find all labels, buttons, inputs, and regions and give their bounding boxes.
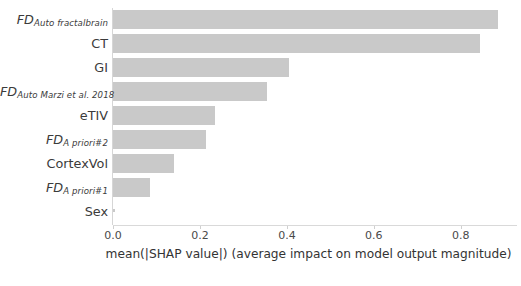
y-label-base: FD [0,84,17,99]
bar[interactable] [113,209,115,212]
bar[interactable] [113,154,174,173]
y-label-text: GI [94,60,108,75]
bar-row: FDA priori#2 [113,128,513,152]
bar-row: FDAuto Marzi et al. 2018 [113,80,513,104]
x-axis-title: mean(|SHAP value|) (average impact on mo… [0,247,521,261]
y-label-subscript: Auto fractalbrain [34,18,108,28]
bar-row: FDA priori#1 [113,176,513,200]
bar-row: FDAuto fractalbrain [113,8,513,32]
bar-row: CortexVol [113,152,513,176]
y-axis-tick-label: GI [0,60,113,75]
x-tick-label: 0.8 [452,229,470,242]
y-label-base: FD [46,180,63,195]
y-axis-tick-label: FDAuto fractalbrain [0,12,113,28]
y-axis-tick-label: CT [0,36,113,51]
x-axis-line [113,225,517,226]
bar[interactable] [113,34,480,53]
bar-row: GI [113,56,513,80]
bar[interactable] [113,10,498,29]
y-label-text: eTIV [80,108,108,123]
x-axis-title-text: mean(|SHAP value|) (average impact on mo… [10,247,512,261]
shap-feature-importance-chart: FDAuto fractalbrainCTGIFDAuto Marzi et a… [0,0,521,286]
y-label-base: FD [46,132,63,147]
bar[interactable] [113,58,289,77]
bar[interactable] [113,130,206,149]
x-tick-label: 0.4 [278,229,296,242]
y-label-text: CortexVol [47,156,108,171]
y-label-subscript: A priori#2 [63,138,108,148]
y-label-text: CT [91,36,108,51]
plot-area: FDAuto fractalbrainCTGIFDAuto Marzi et a… [113,8,513,224]
y-label-base: FD [17,12,34,27]
x-tick-label: 0.0 [104,229,122,242]
y-label-text: Sex [85,204,108,219]
bar[interactable] [113,82,267,101]
y-axis-tick-label: FDAuto Marzi et al. 2018 [0,84,113,100]
bar[interactable] [113,178,150,197]
y-axis-tick-label: Sex [0,204,113,219]
x-tick-label: 0.6 [365,229,383,242]
x-tick-label: 0.2 [191,229,209,242]
bar[interactable] [113,106,215,125]
y-axis-tick-label: FDA priori#1 [0,180,113,196]
bar-row: eTIV [113,104,513,128]
y-axis-tick-label: CortexVol [0,156,113,171]
y-label-subscript: A priori#1 [63,186,108,196]
y-axis-tick-label: eTIV [0,108,113,123]
bar-row: Sex [113,200,513,224]
bar-row: CT [113,32,513,56]
y-axis-tick-label: FDA priori#2 [0,132,113,148]
y-label-subscript: Auto Marzi et al. 2018 [17,90,114,100]
